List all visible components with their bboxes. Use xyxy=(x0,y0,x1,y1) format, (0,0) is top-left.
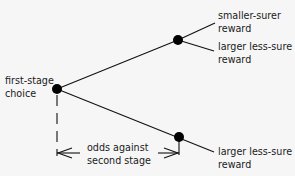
upper-second-stage-node xyxy=(173,35,183,45)
upper-a-label-line2: reward xyxy=(218,23,251,34)
root-label-line2: choice xyxy=(5,88,36,99)
branch-root-to-upper xyxy=(57,40,178,89)
branch-upper-to-smaller-surer xyxy=(178,23,215,40)
branch-upper-to-larger-less-sure xyxy=(178,40,214,51)
decision-tree-diagram: first-stage choice smaller-surer reward … xyxy=(0,0,295,176)
root-label-line1: first-stage xyxy=(5,75,54,86)
upper-b-label-line2: reward xyxy=(218,54,251,65)
upper-a-label-line1: smaller-surer xyxy=(218,10,281,21)
lower-a-label-line1: larger less-sure xyxy=(218,146,292,157)
upper-b-label-line1: larger less-sure xyxy=(218,41,292,52)
annotation-line1: odds against xyxy=(87,142,149,153)
annotation-line2: second stage xyxy=(87,155,151,166)
lower-a-label-line2: reward xyxy=(218,159,251,170)
lower-second-stage-node xyxy=(174,132,184,142)
